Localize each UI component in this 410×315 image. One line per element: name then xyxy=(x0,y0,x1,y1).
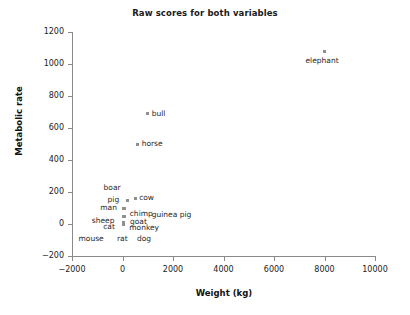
y-tick-label: 1200 xyxy=(26,27,64,36)
y-tick-label: 1000 xyxy=(26,59,64,68)
x-tick-mark xyxy=(274,257,275,261)
x-tick-mark xyxy=(325,257,326,261)
data-point-marker xyxy=(126,199,129,202)
data-point-label: rat xyxy=(117,235,128,243)
data-point-label: guinea pig xyxy=(152,211,192,219)
x-tick-label: 8000 xyxy=(300,265,350,274)
x-tick-label: 0 xyxy=(98,265,148,274)
x-tick-label: 2000 xyxy=(148,265,198,274)
x-tick-label: 4000 xyxy=(199,265,249,274)
y-tick-label: 800 xyxy=(26,91,64,100)
data-point-label: boar xyxy=(104,184,121,192)
data-point-label: mouse xyxy=(79,235,104,243)
x-axis-title: Weight (kg) xyxy=(72,288,376,298)
scatter-plot-figure: Raw scores for both variables Metabolic … xyxy=(0,0,410,315)
plot-area: elephantbullhorseboarpigcowmanchimpguine… xyxy=(72,32,375,256)
data-point-marker xyxy=(323,50,326,53)
data-point-marker xyxy=(136,143,139,146)
data-point-marker xyxy=(134,197,137,200)
x-tick-label: 6000 xyxy=(249,265,299,274)
x-tick-mark xyxy=(173,257,174,261)
data-point-label: monkey xyxy=(129,224,159,232)
data-point-label: cow xyxy=(139,194,154,202)
y-tick-label: 200 xyxy=(26,187,64,196)
y-tick-label: −200 xyxy=(26,251,64,260)
data-point-marker xyxy=(122,207,125,210)
x-tick-label: −2000 xyxy=(47,265,97,274)
y-axis-title: Metabolic rate xyxy=(14,66,24,176)
x-tick-mark xyxy=(123,257,124,261)
x-tick-mark xyxy=(72,257,73,261)
data-point-marker xyxy=(146,112,149,115)
x-tick-mark xyxy=(224,257,225,261)
data-point-label: elephant xyxy=(306,57,339,65)
data-point-label: man xyxy=(100,204,117,212)
data-point-label: dog xyxy=(137,235,151,243)
data-point-marker xyxy=(123,215,126,218)
chart-title: Raw scores for both variables xyxy=(0,8,410,18)
data-point-marker xyxy=(122,223,125,226)
x-tick-label: 10000 xyxy=(350,265,400,274)
data-point-label: horse xyxy=(142,140,163,148)
y-tick-label: 600 xyxy=(26,123,64,132)
x-tick-mark xyxy=(375,257,376,261)
y-tick-label: 400 xyxy=(26,155,64,164)
y-tick-label: 0 xyxy=(26,219,64,228)
data-point-label: cat xyxy=(103,223,115,231)
data-point-label: bull xyxy=(152,110,166,118)
